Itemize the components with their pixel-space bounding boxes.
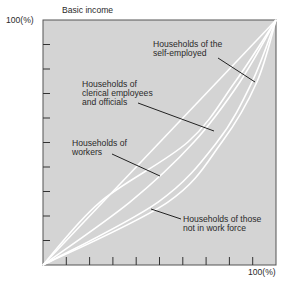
annotation-workers: Households of workers (72, 139, 127, 157)
x-axis-max-label: 100(%) (248, 268, 276, 277)
lorenz-chart (0, 0, 291, 287)
y-axis-max-label: 100(%) (6, 16, 34, 25)
annotation-not-in-work-force: Households of those not in work force (183, 215, 261, 233)
annotation-self-employed: Households of the self-employed (153, 40, 222, 58)
y-axis-label: Basic income (62, 6, 113, 15)
annotation-clerical: Households of clerical employees and off… (82, 80, 153, 107)
